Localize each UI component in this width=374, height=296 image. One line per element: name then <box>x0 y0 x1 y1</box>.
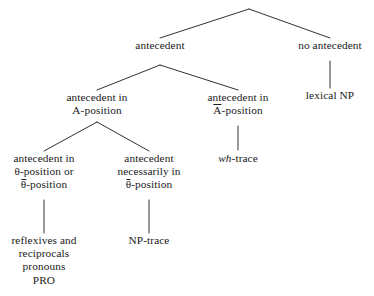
node-antecedent-in-a-position: antecedent in A-position <box>66 91 127 117</box>
node-reflexives-line4: PRO <box>11 274 76 287</box>
node-antecedent: antecedent <box>135 39 184 52</box>
node-antecedent-theta-line3: θ-position <box>13 178 74 191</box>
node-reflexives-line2: reciprocals <box>11 247 76 260</box>
node-antecedent-necessarily-line3: θ-position <box>117 178 180 191</box>
edge-a-position-theta-or-thetabar <box>44 122 97 151</box>
abar-position-suffix: -position <box>222 104 263 116</box>
node-wh-trace: wh-trace <box>218 152 258 165</box>
a-bar-glyph: A <box>213 104 221 117</box>
node-lexical-np-label: lexical NP <box>306 89 354 102</box>
edge-a-position-necessarily-thetabar <box>97 122 149 151</box>
node-antecedent-theta-line1: antecedent in <box>13 152 74 165</box>
node-reflexives-group: reflexives and reciprocals pronouns PRO <box>11 234 76 287</box>
node-antecedent-in-abar-position-line1: antecedent in <box>207 91 268 104</box>
edge-antecedent-a-position <box>97 65 160 90</box>
theta-bar-glyph-2: θ <box>126 178 132 191</box>
thetabar-position-suffix: -position <box>26 178 67 190</box>
node-antecedent-necessarily-line2: necessarily in <box>117 165 180 178</box>
edge-root-antecedent <box>160 9 249 38</box>
thetabar-position-suffix-2: -position <box>131 178 172 190</box>
node-antecedent-theta-or-thetabar: antecedent in θ-position or θ-position <box>13 152 74 192</box>
node-antecedent-in-abar-position-line2: A-position <box>207 104 268 117</box>
node-antecedent-necessarily-thetabar: antecedent necessarily in θ-position <box>117 152 180 192</box>
edge-root-no-antecedent <box>249 9 330 38</box>
node-np-trace-label: NP-trace <box>129 234 170 247</box>
edge-antecedent-abar-position <box>160 65 238 90</box>
theta-bar-glyph: θ <box>21 178 27 191</box>
node-antecedent-label: antecedent <box>135 39 184 52</box>
node-antecedent-necessarily-line1: antecedent <box>117 152 180 165</box>
node-no-antecedent-label: no antecedent <box>298 39 362 52</box>
tree-diagram: antecedent no antecedent antecedent in A… <box>0 0 374 296</box>
node-reflexives-line3: pronouns <box>11 260 76 273</box>
wh-italic-part: wh <box>218 152 231 164</box>
node-antecedent-in-abar-position: antecedent in A-position <box>207 91 268 117</box>
node-lexical-np: lexical NP <box>306 89 354 102</box>
node-no-antecedent: no antecedent <box>298 39 362 52</box>
node-antecedent-in-a-position-line1: antecedent in <box>66 91 127 104</box>
node-antecedent-theta-line2: θ-position or <box>13 165 74 178</box>
node-antecedent-in-a-position-line2: A-position <box>66 104 127 117</box>
node-reflexives-line1: reflexives and <box>11 234 76 247</box>
node-np-trace: NP-trace <box>129 234 170 247</box>
wh-trace-roman-part: -trace <box>232 152 258 164</box>
node-wh-trace-label: wh-trace <box>218 152 258 165</box>
